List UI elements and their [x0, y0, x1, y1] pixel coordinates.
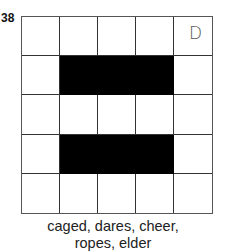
- crossword-grid: D: [21, 16, 213, 214]
- black-cell: [98, 56, 136, 95]
- grid-cell[interactable]: [174, 174, 212, 213]
- grid-cell[interactable]: [22, 17, 60, 56]
- grid-cell[interactable]: [174, 95, 212, 134]
- black-cell: [98, 135, 136, 174]
- word-list-line-2: ropes, elder: [0, 235, 226, 252]
- given-letter: D: [189, 23, 202, 43]
- grid-cell[interactable]: [136, 174, 174, 213]
- grid-cell[interactable]: [98, 95, 136, 134]
- word-list: caged, dares, cheer, ropes, elder: [0, 218, 226, 252]
- grid-cell[interactable]: [174, 135, 212, 174]
- grid-cell[interactable]: [60, 95, 98, 134]
- black-cell: [136, 135, 174, 174]
- black-cell: [60, 56, 98, 95]
- grid-cell[interactable]: [22, 135, 60, 174]
- black-cell: [136, 56, 174, 95]
- grid-cell[interactable]: [60, 17, 98, 56]
- grid-cell[interactable]: [136, 17, 174, 56]
- word-list-line-1: caged, dares, cheer,: [0, 218, 226, 235]
- black-cell: [60, 135, 98, 174]
- grid-cell[interactable]: [60, 174, 98, 213]
- grid-cell[interactable]: [98, 174, 136, 213]
- grid-cell[interactable]: [136, 95, 174, 134]
- grid-cell[interactable]: [22, 174, 60, 213]
- puzzle-number: 38: [1, 12, 14, 24]
- grid-cell[interactable]: [22, 95, 60, 134]
- grid-cell[interactable]: [174, 56, 212, 95]
- grid-cell[interactable]: [98, 17, 136, 56]
- grid-cell[interactable]: D: [174, 17, 212, 56]
- grid-cell[interactable]: [22, 56, 60, 95]
